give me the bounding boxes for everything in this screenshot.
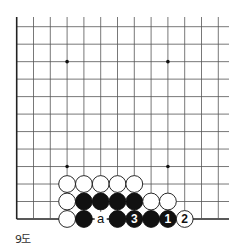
white-stone: [126, 176, 143, 193]
white-stone: [160, 193, 177, 210]
black-stone-icon: [92, 193, 109, 210]
black-stone: [109, 193, 126, 210]
white-stone-icon: [76, 176, 93, 193]
white-stone: 2: [176, 211, 193, 228]
white-stone: [143, 193, 160, 210]
white-stone: [109, 176, 126, 193]
white-stone-icon: [59, 211, 76, 228]
black-stone-icon: [76, 211, 93, 228]
star-point-icon: [166, 165, 170, 169]
black-stone: [76, 193, 93, 210]
white-stone-icon: [109, 176, 126, 193]
white-stone-icon: [160, 193, 177, 210]
black-stone: [76, 211, 93, 228]
white-stone-icon: [59, 176, 76, 193]
white-stone: [92, 176, 109, 193]
white-stone-icon: [126, 176, 143, 193]
black-stone: [143, 211, 160, 228]
black-stone-icon: [76, 193, 93, 210]
black-stone: [92, 193, 109, 210]
white-stone: [76, 176, 93, 193]
white-stone: [59, 176, 76, 193]
white-stone-icon: [59, 193, 76, 210]
black-stone: 3: [126, 211, 143, 228]
star-point-icon: [65, 165, 69, 169]
go-board-diagram: 312 a: [0, 0, 241, 246]
star-point-icon: [166, 60, 170, 64]
white-stone-icon: [92, 176, 109, 193]
point-mark: a: [95, 211, 107, 226]
black-stone: 1: [160, 211, 177, 228]
black-stone: [126, 193, 143, 210]
stones-layer: 312: [59, 176, 193, 228]
diagram-caption: 9도: [15, 230, 31, 246]
black-stone: [109, 211, 126, 228]
black-stone-icon: [126, 193, 143, 210]
white-stone-icon: [143, 193, 160, 210]
black-stone-icon: [109, 211, 126, 228]
point-letter-label: a: [97, 211, 105, 226]
marks-layer: a: [95, 211, 107, 226]
black-stone-icon: [143, 211, 160, 228]
star-point-icon: [65, 60, 69, 64]
move-number-label: 2: [181, 212, 188, 226]
move-number-label: 3: [131, 212, 138, 226]
move-number-label: 1: [165, 212, 172, 226]
black-stone-icon: [109, 193, 126, 210]
white-stone: [59, 211, 76, 228]
white-stone: [59, 193, 76, 210]
